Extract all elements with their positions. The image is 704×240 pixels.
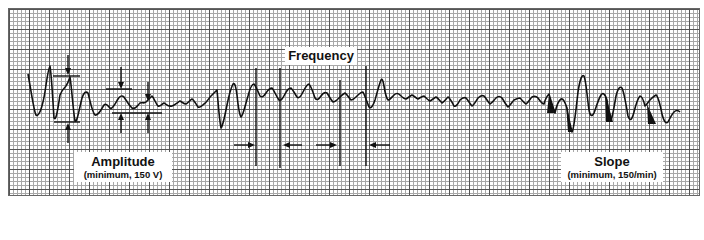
amplitude-subtitle: (minimum, 150 V) xyxy=(74,169,172,181)
slope-label: Slope (minimum, 150/min) xyxy=(561,152,663,182)
slope-subtitle: (minimum, 150/min) xyxy=(561,169,663,181)
amplitude-label: Amplitude (minimum, 150 V) xyxy=(74,152,172,182)
frequency-title: Frequency xyxy=(285,47,357,65)
slope-title: Slope xyxy=(561,154,663,169)
frequency-label: Frequency xyxy=(285,47,357,65)
frequency-markers xyxy=(234,66,390,168)
amplitude-title: Amplitude xyxy=(74,154,172,169)
slope-fill-1 xyxy=(547,94,555,113)
waveform-trace xyxy=(28,66,680,132)
amplitude-markers xyxy=(53,55,162,143)
slope-fill-4 xyxy=(647,104,656,124)
